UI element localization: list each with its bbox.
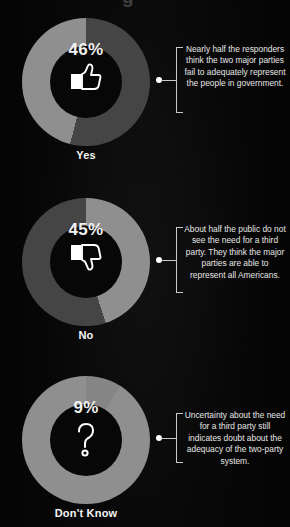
- callout-note-dont-know: Uncertainty about the need for a third p…: [184, 410, 286, 467]
- callout-connector-no: [156, 198, 182, 326]
- thumbs-down-icon: [22, 242, 150, 272]
- category-label-dont-know: Don't Know: [22, 507, 150, 519]
- clipped-header-glyph: g: [122, 0, 135, 8]
- question-mark-icon: [22, 420, 150, 458]
- category-label-no: No: [22, 329, 150, 341]
- donut-center-value-yes: 46%: [22, 40, 150, 60]
- callout-bracket-cap-bottom-yes: [176, 112, 183, 113]
- donut-chart-yes: 46% Yes: [22, 18, 150, 146]
- callout-note-yes: Nearly half the responders think the two…: [184, 44, 286, 90]
- callout-note-no: About half the public do not see the nee…: [184, 224, 286, 281]
- callout-bracket-yes: [176, 47, 177, 112]
- callout-bracket-cap-bottom-no: [176, 292, 183, 293]
- donut-center-value-no: 45%: [22, 220, 150, 240]
- callout-lead-line-no: [161, 260, 176, 261]
- callout-bracket-no: [176, 227, 177, 292]
- callout-bracket-cap-top-yes: [176, 47, 183, 48]
- callout-lead-line-yes: [161, 80, 176, 81]
- donut-chart-dont-know: 9% Don't Know: [22, 376, 150, 504]
- callout-connector-dont-know: [156, 376, 182, 504]
- callout-connector-yes: [156, 18, 182, 146]
- thumbs-up-icon: [22, 62, 150, 92]
- category-label-yes: Yes: [22, 149, 150, 161]
- callout-bracket-dont-know: [176, 413, 177, 462]
- callout-bracket-cap-top-no: [176, 227, 183, 228]
- callout-bracket-cap-bottom-dont-know: [176, 462, 183, 463]
- donut-center-value-dont-know: 9%: [22, 398, 150, 418]
- callout-lead-line-dont-know: [161, 438, 176, 439]
- donut-chart-no: 45% No: [22, 198, 150, 326]
- infographic-canvas: g 46% Yes Nearly half the responders thi…: [0, 0, 290, 527]
- callout-bracket-cap-top-dont-know: [176, 413, 183, 414]
